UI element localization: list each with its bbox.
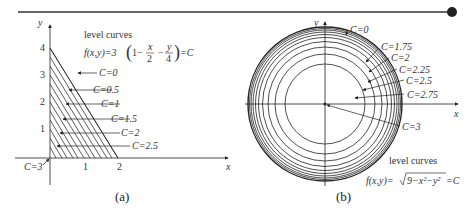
svg-text:=C: =C — [180, 47, 194, 58]
x-tick: 1 — [83, 161, 88, 172]
svg-text:2: 2 — [147, 53, 152, 64]
bullet-dot-icon — [447, 7, 457, 17]
level-label: C=0.5 — [93, 84, 119, 95]
level-label: C=0 — [350, 24, 368, 35]
x-axis-label: x — [453, 108, 459, 119]
panel-a-title: level curves — [84, 29, 132, 40]
figure-canvas: x y 4 3 2 1 1 2 C=0 C=0.5 C=1 C=1.5 C=2 … — [0, 0, 472, 220]
panel-a-caption: (a) — [115, 189, 129, 204]
svg-text:y: y — [166, 41, 172, 52]
svg-text:f(x,y)=: f(x,y)= — [366, 175, 394, 187]
y-tick: 1 — [40, 123, 45, 134]
y-tick: 4 — [40, 42, 45, 53]
svg-text:9−x²−y²: 9−x²−y² — [407, 175, 441, 186]
level-label: C=0 — [99, 67, 117, 78]
level-label: C=1 — [101, 98, 119, 109]
svg-text:f(x,y)=3: f(x,y)=3 — [84, 47, 117, 59]
level-label: C=2 — [121, 127, 139, 138]
y-axis-label: y — [313, 17, 319, 28]
panel-a-formula: f(x,y)=3 ( 1− x 2 − y 4 ) =C — [84, 41, 194, 64]
y-axis-label: y — [37, 17, 43, 28]
svg-text:4: 4 — [166, 53, 171, 64]
svg-text:1−: 1− — [132, 47, 143, 58]
panel-b-caption: (b) — [336, 189, 351, 204]
panel-b-title: level curves — [389, 155, 437, 166]
level-label: C=3 — [24, 161, 42, 172]
y-tick: 3 — [40, 69, 45, 80]
y-tick: 2 — [40, 96, 45, 107]
level-label: C=3 — [402, 121, 420, 132]
level-label: C=2.5 — [132, 140, 158, 151]
level-label: C=2.25 — [399, 64, 430, 75]
level-label: C=2 — [391, 52, 409, 63]
x-axis-label: x — [225, 161, 231, 172]
level-label: C=2.5 — [406, 75, 432, 86]
svg-text:=C: =C — [446, 175, 460, 186]
level-label: C=2.75 — [407, 89, 438, 100]
svg-text:−: − — [158, 47, 164, 58]
panel-a: x y 4 3 2 1 1 2 C=0 C=0.5 C=1 C=1.5 C=2 … — [15, 17, 231, 204]
level-label: C=1.75 — [381, 41, 412, 52]
x-tick: 2 — [117, 161, 122, 172]
panel-b: x y C=0 C=1.75 C=2 C=2.25 C=2.5 C=2.75 C… — [245, 17, 460, 204]
header-rule — [18, 7, 457, 17]
level-label: C=1.5 — [111, 113, 137, 124]
svg-text:x: x — [147, 41, 153, 52]
panel-b-formula: f(x,y)= 9−x²−y² =C — [366, 173, 460, 187]
